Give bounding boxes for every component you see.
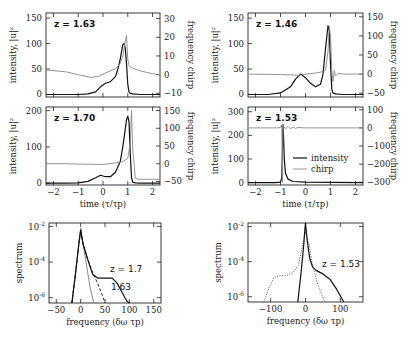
y2-tick-label: 0	[164, 70, 169, 80]
y2-tick-label: −50	[164, 176, 182, 186]
y2-tick-label: 50	[164, 141, 175, 151]
x-axis-label: frequency (δω τp)	[66, 317, 143, 327]
annotation-z2: 1.63	[111, 282, 131, 292]
x-tick-label: 1	[125, 187, 130, 197]
x-tick-label: −50	[47, 305, 65, 315]
y-tick-label: 100	[26, 142, 42, 152]
series-chirp	[248, 26, 363, 81]
y2-tick-label: 10	[164, 51, 175, 61]
plot-frame	[49, 223, 161, 303]
y2-tick-label: 0	[367, 123, 372, 133]
x-axis-label: time (τ/τp)	[80, 199, 126, 209]
x-tick-label: −1	[72, 187, 85, 197]
y-axis-label: intensity, |u|²	[8, 27, 19, 83]
x-tick-label: 0	[303, 187, 308, 197]
x-tick-label: 2	[150, 187, 155, 197]
x-tick-label: −2	[47, 187, 60, 197]
y2-tick-label: −200	[367, 159, 390, 169]
plot-bottom-left: −5005010015010-210-410-6z = 1.71.63spect…	[14, 220, 162, 327]
y2-tick-label: −10	[164, 88, 182, 98]
y2-tick-label: −100	[367, 141, 390, 151]
y-tick-label: 10-2	[28, 220, 45, 232]
y-tick-label: 300	[228, 107, 244, 117]
x-axis-label: time (τ/τp)	[282, 199, 328, 209]
x-axis-label: frequency (δω τp)	[267, 316, 344, 326]
y2-axis-label: frequency chirp	[389, 21, 399, 90]
y-tick-label: 100	[228, 39, 244, 49]
y2-axis-label: frequency chirp	[389, 112, 399, 181]
x-tick-label: 1	[328, 187, 333, 197]
x-tick-label: 100	[332, 304, 348, 314]
annotation-z: z = 1.7	[110, 264, 142, 274]
x-tick-label: 0	[78, 305, 83, 315]
y-tick-label: 10-4	[227, 255, 244, 267]
y2-tick-label: 150	[164, 106, 180, 116]
y-tick-label: 0	[37, 178, 42, 188]
y-tick-label: 10-6	[227, 290, 244, 302]
y2-tick-label: 100	[367, 31, 383, 41]
annotation-z: z = 1.53	[322, 259, 360, 269]
y-tick-label: 200	[26, 106, 42, 116]
legend-chirp: chirp	[311, 164, 334, 174]
y2-tick-label: 100	[367, 105, 383, 115]
y-tick-label: 0	[239, 89, 244, 99]
x-tick-label: −2	[249, 187, 262, 197]
x-tick-label: 100	[121, 305, 137, 315]
legend-intensity: intensity	[311, 153, 349, 163]
y2-axis-label: frequency chirp	[186, 21, 196, 90]
y-tick-label: 100	[26, 39, 42, 49]
y2-tick-label: 30	[164, 14, 175, 24]
plot-bottom-right: −100010010-210-410-6z = 1.53spectrumfreq…	[213, 220, 363, 326]
y2-tick-label: 0	[164, 159, 169, 169]
y-tick-label: 0	[37, 89, 42, 99]
x-tick-label: −100	[259, 304, 282, 314]
plot-top-left: 050100150−100102030z = 1.63intensity, |u…	[8, 13, 196, 99]
y-tick-label: 10-6	[28, 291, 45, 303]
annotation-z: z = 1.63	[54, 19, 95, 29]
y2-tick-label: 50	[367, 50, 378, 60]
y-axis-label: intensity, |u|²	[210, 118, 221, 174]
x-tick-label: −1	[274, 187, 287, 197]
plot-top-right: 050100150−50050100150z = 1.46intensity, …	[210, 12, 399, 100]
x-tick-label: 2	[353, 187, 358, 197]
y2-tick-label: −50	[367, 88, 385, 98]
y2-tick-label: 0	[367, 69, 372, 79]
y-tick-label: 50	[31, 64, 42, 74]
y2-tick-label: 150	[367, 12, 383, 22]
y-tick-label: 150	[26, 13, 42, 23]
y2-tick-label: 100	[164, 123, 180, 133]
annotation-z: z = 1.46	[256, 19, 297, 29]
series-intensity	[46, 44, 160, 95]
series-intensity	[46, 116, 160, 183]
x-tick-label: 0	[100, 187, 105, 197]
figure: 050100150−100102030z = 1.63intensity, |u…	[0, 0, 408, 343]
y-axis-label: spectrum	[213, 242, 223, 283]
y-tick-label: 100	[228, 154, 244, 164]
y2-axis-label: frequency chirp	[186, 112, 196, 181]
y-tick-label: 50	[233, 64, 244, 74]
series-chirp	[46, 35, 160, 77]
y-axis-label: intensity, |u|²	[210, 27, 221, 83]
y-tick-label: 200	[228, 130, 244, 140]
y-tick-label: 0	[239, 178, 244, 188]
y-tick-label: 10-4	[28, 255, 45, 267]
plot-mid-right: −2−10120100200300−300−200−1000100z = 1.5…	[210, 105, 399, 209]
annotation-z: z = 1.70	[54, 113, 95, 123]
series-intensity	[248, 26, 363, 95]
y2-tick-label: −300	[367, 177, 390, 187]
x-tick-label: 50	[100, 305, 111, 315]
series-z-1-53-dotted-	[264, 232, 325, 302]
y-axis-label: intensity, |u|²	[8, 118, 19, 174]
y-tick-label: 150	[228, 13, 244, 23]
y2-tick-label: 20	[164, 32, 175, 42]
y-axis-label: spectrum	[14, 243, 24, 284]
y-tick-label: 10-2	[227, 220, 244, 232]
annotation-z: z = 1.53	[256, 113, 297, 123]
plot-mid-left: −2−10120100200−50050100150z = 1.70intens…	[8, 106, 196, 209]
x-tick-label: 0	[303, 304, 308, 314]
x-tick-label: 150	[146, 305, 162, 315]
